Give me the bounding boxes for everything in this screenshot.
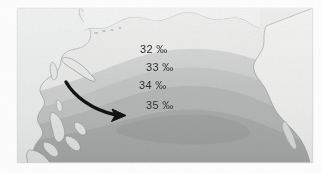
contour-label-34: 34 ‰ xyxy=(139,79,167,91)
contour-label-33: 33 ‰ xyxy=(146,61,174,73)
salinity-map-figure: 32 ‰ 33 ‰ 34 ‰ 35 ‰ xyxy=(0,0,322,173)
contour-label-32: 32 ‰ xyxy=(140,43,168,55)
contour-label-35: 35 ‰ xyxy=(146,99,174,111)
